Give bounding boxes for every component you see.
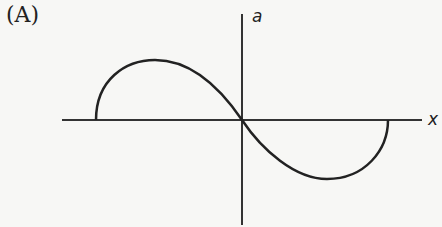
graph bbox=[0, 0, 442, 227]
